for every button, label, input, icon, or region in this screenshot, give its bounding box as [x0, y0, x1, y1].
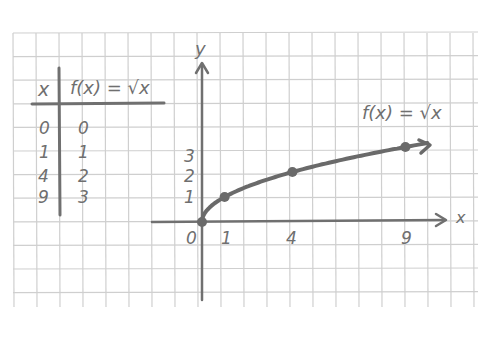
table-header-fx: f(x) = √x: [70, 77, 150, 98]
x-axis-label: x: [455, 208, 466, 227]
data-point-2: [287, 167, 297, 177]
x-tick-0: 0: [186, 228, 197, 248]
values-table: x f(x) = √x 0 0 1 1 4 2 9 3: [32, 68, 164, 215]
y-axis-label: y: [194, 38, 206, 59]
table-cell-fx-3: 3: [78, 187, 89, 207]
y-tick-1: 1: [184, 187, 195, 207]
table-cell-fx-0: 0: [78, 118, 89, 138]
table-vertical-rule: [59, 68, 60, 215]
x-tick-4: 4: [286, 228, 297, 248]
data-point-1: [220, 192, 230, 202]
x-axis: [152, 220, 445, 222]
sqrt-curve: [202, 143, 428, 222]
table-cell-x-0: 0: [39, 118, 50, 138]
graph-paper-figure: x f(x) = √x 0 0 1 1 4 2 9 3 x y 0 1 4 9 …: [0, 0, 482, 340]
axes: [152, 63, 446, 300]
x-tick-9: 9: [401, 228, 412, 248]
y-tick-3: 3: [184, 146, 195, 166]
table-cell-x-3: 9: [38, 187, 49, 207]
table-cell-fx-1: 1: [78, 142, 89, 162]
table-cell-fx-2: 2: [78, 166, 89, 186]
function-label: f(x) = √x: [362, 102, 442, 123]
data-point-3: [400, 142, 410, 152]
x-tick-1: 1: [221, 228, 232, 248]
data-point-0: [197, 217, 207, 227]
data-points: [197, 142, 410, 227]
y-tick-2: 2: [184, 166, 195, 186]
table-cell-x-1: 1: [39, 142, 50, 162]
table-horizontal-rule: [32, 103, 164, 104]
table-header-x: x: [37, 78, 50, 100]
table-cell-x-2: 4: [38, 166, 49, 186]
